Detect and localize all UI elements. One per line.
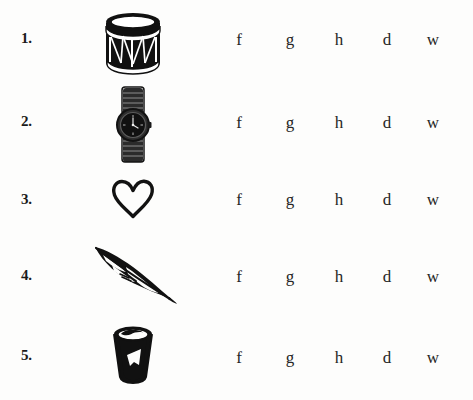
choice-option-h[interactable]: h (328, 190, 350, 210)
choice-option-w[interactable]: w (422, 190, 444, 210)
picture-cell-1 (85, 5, 180, 80)
choice-option-g[interactable]: g (279, 190, 301, 210)
feather-icon (89, 243, 177, 305)
row-number-5: 5. (21, 347, 32, 364)
worksheet-row: 1. (0, 0, 473, 85)
choice-option-h[interactable]: h (328, 267, 350, 287)
choice-option-w[interactable]: w (422, 267, 444, 287)
choice-option-f[interactable]: f (228, 348, 250, 368)
worksheet-row: 4. (0, 240, 473, 318)
drinking-glass-icon (110, 325, 156, 385)
picture-cell-4 (85, 240, 180, 308)
heart-icon (110, 179, 156, 219)
choice-option-d[interactable]: d (376, 348, 398, 368)
choice-option-d[interactable]: d (376, 30, 398, 50)
choice-option-h[interactable]: h (328, 113, 350, 133)
worksheet-row: 5. (0, 318, 473, 400)
choice-option-f[interactable]: f (228, 113, 250, 133)
choice-option-d[interactable]: d (376, 267, 398, 287)
picture-cell-3 (85, 173, 180, 225)
choice-option-g[interactable]: g (279, 30, 301, 50)
wristwatch-icon (108, 86, 158, 164)
row-number-3: 3. (21, 191, 32, 208)
picture-cell-5 (85, 320, 180, 390)
choice-option-g[interactable]: g (279, 348, 301, 368)
worksheet-row: 3. f g h d w (0, 168, 473, 240)
picture-cell-2 (85, 85, 180, 165)
choice-option-h[interactable]: h (328, 348, 350, 368)
choice-option-f[interactable]: f (228, 190, 250, 210)
choice-option-g[interactable]: g (279, 113, 301, 133)
choice-option-w[interactable]: w (422, 113, 444, 133)
row-number-4: 4. (21, 267, 32, 284)
choice-option-h[interactable]: h (328, 30, 350, 50)
choice-option-w[interactable]: w (422, 30, 444, 50)
choice-option-g[interactable]: g (279, 267, 301, 287)
row-number-1: 1. (21, 30, 32, 47)
drum-icon (101, 10, 165, 76)
worksheet-row: 2. (0, 85, 473, 168)
choice-option-w[interactable]: w (422, 348, 444, 368)
row-number-2: 2. (21, 113, 32, 130)
choice-option-d[interactable]: d (376, 190, 398, 210)
choice-option-f[interactable]: f (228, 267, 250, 287)
choice-option-f[interactable]: f (228, 30, 250, 50)
worksheet-page: 1. (0, 0, 473, 400)
choice-option-d[interactable]: d (376, 113, 398, 133)
